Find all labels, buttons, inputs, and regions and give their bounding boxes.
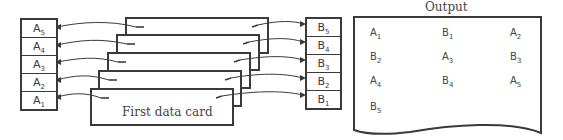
output-title: Output: [425, 0, 468, 14]
array-b-cell: B5: [307, 19, 340, 36]
output-item: B2: [370, 51, 381, 65]
output-item: A3: [442, 51, 453, 65]
array-b-cell: B2: [307, 72, 340, 90]
array-a: A5 A4 A3 A2 A1: [20, 18, 58, 111]
array-b-cell: B4: [307, 36, 340, 54]
array-b-cell: B1: [307, 90, 340, 108]
output-item: B5: [370, 101, 381, 115]
output-item: A1: [370, 27, 381, 41]
first-data-card-label: First data card: [122, 105, 213, 119]
array-b: B5 B4 B3 B2 B1: [305, 17, 342, 110]
output-item: A4: [370, 75, 381, 89]
array-a-cell: A1: [22, 91, 56, 109]
output-item: B3: [510, 51, 521, 65]
array-a-cell: A2: [22, 73, 56, 91]
output-item: B1: [442, 27, 453, 41]
output-item: A5: [510, 75, 521, 89]
array-a-cell: A4: [22, 37, 56, 55]
array-a-cell: A3: [22, 55, 56, 73]
diagram-canvas: [0, 0, 563, 140]
array-b-cell: B3: [307, 54, 340, 72]
output-item: A2: [510, 27, 521, 41]
array-a-cell: A5: [22, 20, 56, 37]
output-item: B4: [442, 75, 453, 89]
